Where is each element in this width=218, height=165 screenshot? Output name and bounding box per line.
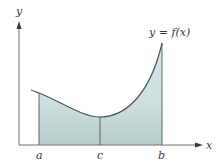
x-axis-label: x <box>206 139 213 152</box>
x-axis-arrow-icon <box>195 143 203 148</box>
y-axis-label: y <box>15 5 23 18</box>
point-label-a: a <box>36 149 43 162</box>
point-label-b: b <box>158 149 165 162</box>
point-label-c: c <box>97 149 103 162</box>
area-under-curve-diagram: y x y = f(x) a c b <box>0 0 218 165</box>
y-axis-arrow-icon <box>17 21 22 29</box>
shaded-region <box>39 43 162 145</box>
curve-label: y = f(x) <box>148 26 190 39</box>
